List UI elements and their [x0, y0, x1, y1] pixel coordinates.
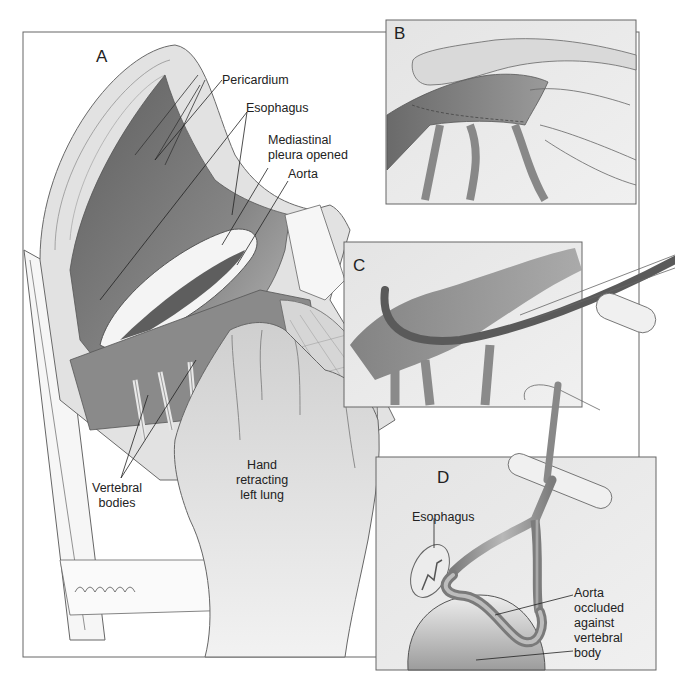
panel-b-letter: B	[394, 24, 405, 44]
label-esophagus-d: Esophagus	[412, 510, 475, 525]
label-vertebral-bodies: Vertebral bodies	[92, 481, 142, 511]
label-hand-retracting: Hand retracting left lung	[236, 458, 288, 503]
panel-b	[386, 20, 636, 204]
label-esophagus-a: Esophagus	[246, 101, 309, 116]
panel-c-letter: C	[353, 256, 365, 276]
panel-a-letter: A	[96, 47, 107, 67]
label-pericardium: Pericardium	[222, 73, 289, 88]
label-mediastinal-pleura: Mediastinal pleura opened	[268, 133, 348, 163]
label-aorta-occluded: Aorta occluded against vertebral body	[574, 586, 624, 661]
surgical-illustration: A B C D Pericardium Esophagus Mediastina…	[0, 0, 675, 689]
panel-d-letter: D	[437, 468, 449, 488]
label-aorta-a: Aorta	[288, 167, 318, 182]
